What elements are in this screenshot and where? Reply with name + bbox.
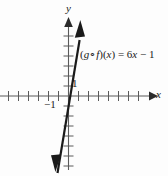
equation-intercept: 1 [149,48,155,60]
tick-label-one: 1 [72,78,78,89]
y-axis-arrow-icon [64,17,73,27]
function-line-arrow-up-icon [75,20,85,38]
tick-label-negative-one: −1 [44,99,56,110]
y-axis-label: y [66,3,71,14]
equation-annotation: (g∘f)(x) = 6x − 1 [80,49,154,60]
graph-figure: y x 1 −1 (g∘f)(x) = 6x − 1 [0,0,168,176]
coordinate-plane [0,0,168,176]
x-axis-label: x [156,89,161,100]
